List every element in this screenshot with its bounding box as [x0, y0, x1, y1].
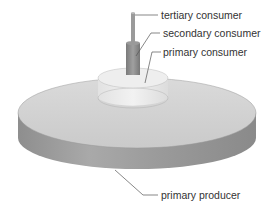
label-secondary-consumer: secondary consumer [163, 28, 260, 39]
tertiary-consumer-rod [131, 12, 135, 43]
label-primary-producer: primary producer [161, 190, 240, 201]
secondary-consumer-cylinder [126, 41, 140, 75]
label-tertiary-consumer: tertiary consumer [161, 10, 242, 21]
label-primary-consumer: primary consumer [163, 47, 247, 58]
